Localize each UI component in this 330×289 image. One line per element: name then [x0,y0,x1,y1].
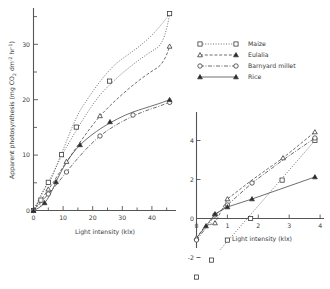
main-x-ticks [34,206,167,211]
inset-xtick-1: 1 [225,222,229,229]
inset-ytick-2: 2 [190,176,194,183]
legend: Maize Eulalia Barnyard millet Ri [198,40,297,80]
main-ytick-10: 10 [22,151,30,158]
legend-item-maize: Maize [198,40,266,47]
main-panel: 0 10 20 30 0 10 20 30 40 L [8,8,176,236]
main-ytick-30: 30 [22,41,30,48]
chart-svg: 0 10 20 30 0 10 20 30 40 L [0,0,330,289]
main-yaxis-label: Apparent photosynthesis (mg CO2 dm-2 hr-… [8,41,17,179]
main-xaxis-label: Light intensity (klx) [75,228,135,236]
inset-xaxis-label: Light intensity (klx) [232,235,292,243]
legend-label-eulalia: Eulalia [248,51,269,58]
inset-ytick-0: 0 [190,215,194,222]
main-xtick-20: 20 [89,214,97,221]
legend-item-rice: Rice [198,73,262,80]
legend-label-maize: Maize [248,40,266,47]
curve-barnyard [34,102,170,210]
markers-maize [31,12,171,213]
main-xtick-0: 0 [32,214,36,221]
legend-marker-barnyard [198,64,202,68]
inset-panel: 4 2 0 -2 0 1 2 3 4 Light intensity (klx) [188,112,324,279]
legend-label-rice: Rice [248,73,261,80]
inset-curve-maize [197,141,315,278]
main-y-ticks [34,17,39,211]
inset-xtick-2: 2 [256,222,260,229]
main-ytick-20: 20 [22,96,30,103]
inset-xtick-3: 3 [287,222,291,229]
legend-item-barnyard: Barnyard millet [198,62,296,70]
legend-item-eulalia: Eulalia [198,51,269,58]
main-xtick-40: 40 [148,214,156,221]
inset-markers-maize [194,138,317,279]
inset-ytick-4: 4 [190,137,194,144]
legend-marker-maize [198,42,202,46]
inset-series-group [197,132,315,277]
main-ytick-0: 0 [26,207,30,214]
inset-xtick-4: 4 [318,222,322,229]
main-xtick-30: 30 [118,214,126,221]
inset-markers-rice [204,175,318,228]
figure-container: 0 10 20 30 0 10 20 30 40 L [0,0,330,289]
legend-label-barnyard: Barnyard millet [248,62,296,70]
inset-xtick-0: 0 [195,222,199,229]
main-xtick-10: 10 [59,214,67,221]
main-series-group [34,14,170,211]
inset-ytick-neg2: -2 [188,254,194,261]
